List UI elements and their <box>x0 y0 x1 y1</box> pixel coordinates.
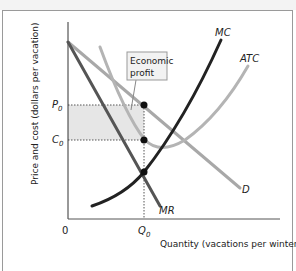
c0-label: C0 <box>52 134 64 148</box>
economic-profit-label-line1: Economic <box>130 56 174 66</box>
mc-label: MC <box>215 27 231 38</box>
mr-label: MR <box>159 205 175 216</box>
origin-label: 0 <box>62 225 68 236</box>
p0-label: P0 <box>52 99 63 113</box>
atc-label: ATC <box>239 53 259 64</box>
d-label: D <box>242 184 250 195</box>
point-p0 <box>141 102 148 109</box>
economic-profit-label-line2: profit <box>130 68 154 78</box>
q0-label: Q0 <box>138 225 151 239</box>
point-c0 <box>141 137 148 144</box>
y-axis-title: Price and cost (dollars per vacation) <box>30 22 40 185</box>
x-axis-title: Quantity (vacations per winter) <box>160 239 296 249</box>
point-mr-mc <box>141 169 148 176</box>
